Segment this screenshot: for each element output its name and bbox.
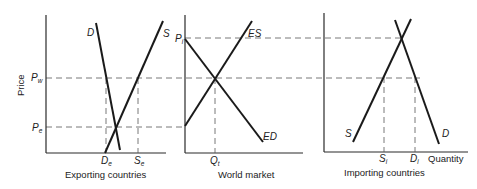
world-caption: World market bbox=[218, 169, 275, 180]
exporting-supply-curve bbox=[105, 21, 163, 153]
importing-demand-curve bbox=[395, 20, 439, 144]
trade-equilibrium-diagram: D S Pw Pe De Se Exporting countries Pric… bbox=[0, 0, 477, 189]
di-label: Di bbox=[410, 153, 419, 165]
price-axis-title: Price bbox=[15, 74, 26, 96]
si-label: Si bbox=[379, 153, 388, 165]
panel-exporting: D S Pw Pe De Se Exporting countries Pric… bbox=[15, 15, 170, 180]
pw-label: Pw bbox=[31, 72, 44, 84]
se-label: Se bbox=[134, 155, 145, 167]
exporting-supply-label: S bbox=[163, 28, 170, 39]
excess-supply-curve bbox=[185, 21, 252, 126]
importing-demand-label: D bbox=[442, 128, 449, 139]
pe-label: Pe bbox=[32, 122, 43, 134]
importing-supply-curve bbox=[353, 19, 411, 142]
es-label: ES bbox=[248, 28, 262, 39]
exporting-demand-label: D bbox=[87, 27, 94, 38]
excess-demand-curve bbox=[185, 39, 263, 142]
de-label: De bbox=[101, 155, 112, 167]
importing-caption: Importing countries bbox=[344, 167, 425, 178]
ed-label: ED bbox=[263, 131, 277, 142]
pi-label: Pi bbox=[175, 33, 184, 45]
exporting-caption: Exporting countries bbox=[65, 169, 147, 180]
qt-label: Qt bbox=[210, 155, 221, 167]
exporting-demand-curve bbox=[96, 23, 120, 150]
panel-world: ES ED Pi Qt World market bbox=[175, 15, 303, 180]
quantity-axis-title: Quantity bbox=[428, 153, 464, 164]
importing-supply-label: S bbox=[345, 128, 352, 139]
